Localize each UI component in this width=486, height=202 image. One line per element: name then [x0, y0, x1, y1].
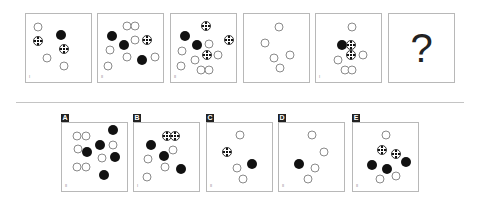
question-panel-6: ? — [388, 13, 455, 83]
black-circle — [159, 151, 169, 161]
black-circle — [110, 152, 120, 162]
white-circle — [375, 175, 384, 184]
white-circle — [59, 61, 68, 70]
option-label-e[interactable]: E — [352, 114, 360, 122]
corner-mark: I — [137, 184, 138, 188]
white-circle — [43, 53, 52, 62]
answer-option-a[interactable]: II — [61, 122, 128, 192]
white-circle — [72, 162, 81, 171]
white-circle — [169, 146, 178, 155]
white-circle — [150, 52, 159, 61]
divider — [16, 102, 464, 103]
corner-mark: I — [319, 75, 320, 79]
white-circle — [310, 163, 319, 172]
answer-option-d[interactable]: II — [278, 122, 345, 192]
question-panel-2: II — [97, 13, 164, 83]
option-label-b[interactable]: B — [133, 114, 141, 122]
black-circle — [119, 40, 129, 50]
answer-option-c[interactable]: II — [206, 122, 273, 192]
answer-option-b[interactable]: I — [133, 122, 200, 192]
white-circle — [238, 175, 247, 184]
white-circle — [261, 39, 270, 48]
option-label-d[interactable]: D — [278, 114, 286, 122]
black-circle — [56, 30, 66, 40]
white-circle — [105, 46, 114, 55]
black-circle — [82, 147, 92, 157]
white-circle — [275, 64, 284, 73]
white-circle — [359, 51, 368, 60]
white-circle — [381, 130, 390, 139]
white-circle — [34, 22, 43, 31]
corner-mark: II — [101, 75, 103, 79]
white-circle — [319, 147, 328, 156]
black-circle — [99, 170, 109, 180]
soccer-ball-icon — [224, 35, 234, 45]
soccer-ball-icon — [170, 131, 180, 141]
white-circle — [347, 22, 356, 31]
black-circle — [107, 31, 117, 41]
question-mark: ? — [389, 28, 454, 68]
corner-mark: II — [356, 184, 358, 188]
soccer-ball-icon — [59, 44, 69, 54]
white-circle — [334, 55, 343, 64]
white-circle — [204, 66, 213, 75]
white-circle — [82, 162, 91, 171]
black-circle — [294, 159, 304, 169]
question-panel-5: I — [315, 13, 382, 83]
question-panel-4 — [243, 13, 310, 83]
soccer-ball-icon — [346, 50, 356, 60]
question-panel-3: II — [170, 13, 237, 83]
black-circle — [247, 159, 257, 169]
white-circle — [176, 62, 185, 71]
white-circle — [214, 51, 223, 60]
black-circle — [382, 164, 392, 174]
black-circle — [108, 125, 118, 135]
option-label-c[interactable]: C — [206, 114, 214, 122]
black-circle — [176, 164, 186, 174]
white-circle — [307, 130, 316, 139]
white-circle — [235, 130, 244, 139]
white-circle — [275, 22, 284, 31]
white-circle — [205, 39, 214, 48]
white-circle — [144, 155, 153, 164]
white-circle — [178, 46, 187, 55]
white-circle — [131, 21, 140, 30]
white-circle — [131, 35, 140, 44]
corner-mark: II — [282, 184, 284, 188]
black-circle — [401, 157, 411, 167]
white-circle — [303, 175, 312, 184]
soccer-ball-icon — [33, 36, 43, 46]
soccer-ball-icon — [201, 21, 211, 31]
corner-mark: II — [65, 184, 67, 188]
black-circle — [192, 40, 202, 50]
white-circle — [98, 154, 107, 163]
corner-mark: II — [174, 75, 176, 79]
black-circle — [95, 140, 105, 150]
white-circle — [143, 172, 152, 181]
white-circle — [347, 66, 356, 75]
white-circle — [104, 61, 113, 70]
white-circle — [161, 162, 170, 171]
white-circle — [232, 163, 241, 172]
answer-option-e[interactable]: II — [352, 122, 419, 192]
question-panel-1: I — [25, 13, 92, 83]
soccer-ball-icon — [391, 149, 401, 159]
white-circle — [191, 55, 200, 64]
black-circle — [137, 55, 147, 65]
corner-mark: I — [29, 75, 30, 79]
soccer-ball-icon — [142, 35, 152, 45]
option-label-a[interactable]: A — [61, 114, 69, 122]
black-circle — [367, 160, 377, 170]
soccer-ball-icon — [202, 50, 212, 60]
white-circle — [82, 131, 91, 140]
white-circle — [391, 172, 400, 181]
black-circle — [180, 31, 190, 41]
white-circle — [285, 51, 294, 60]
white-circle — [72, 131, 81, 140]
soccer-ball-icon — [346, 40, 356, 50]
white-circle — [123, 52, 132, 61]
white-circle — [269, 54, 278, 63]
soccer-ball-icon — [377, 145, 387, 155]
soccer-ball-icon — [222, 147, 232, 157]
corner-mark: II — [210, 184, 212, 188]
